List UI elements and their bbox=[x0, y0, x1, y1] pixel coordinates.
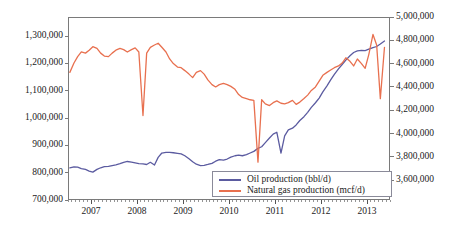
data-series-group bbox=[70, 34, 385, 172]
y-tick-label-right: 4,400,000 bbox=[396, 82, 434, 92]
x-tick-label: 2008 bbox=[128, 207, 147, 217]
legend-label-gas: Natural gas production (mcf/d) bbox=[247, 185, 365, 196]
y-tick-label-left: 1,000,000 bbox=[2, 113, 63, 123]
x-tick-label: 2010 bbox=[220, 207, 239, 217]
y-tick-label-right: 4,600,000 bbox=[396, 59, 434, 69]
y-tick-label-right: 3,800,000 bbox=[396, 152, 434, 162]
y-tick-label-left: 1,200,000 bbox=[2, 59, 63, 69]
legend-swatch-oil bbox=[219, 179, 241, 181]
y-tick-label-left: 1,100,000 bbox=[2, 86, 63, 96]
chart-container: 700,000800,000900,0001,000,0001,100,0001… bbox=[0, 0, 455, 231]
x-tick-label: 2007 bbox=[82, 207, 101, 217]
y-tick-label-left: 1,300,000 bbox=[2, 31, 63, 41]
x-tick-label: 2012 bbox=[312, 207, 331, 217]
y-tick-label-right: 4,800,000 bbox=[396, 36, 434, 46]
y-tick-label-right: 3,600,000 bbox=[396, 175, 434, 185]
legend-item-oil: Oil production (bbl/d) bbox=[213, 174, 391, 185]
x-tick-label: 2011 bbox=[266, 207, 285, 217]
y-tick-label-right: 4,200,000 bbox=[396, 105, 434, 115]
y-tick-label-right: 5,000,000 bbox=[396, 12, 434, 22]
legend-item-gas: Natural gas production (mcf/d) bbox=[213, 185, 391, 196]
y-tick-label-right: 4,000,000 bbox=[396, 129, 434, 139]
x-tick-label: 2009 bbox=[174, 207, 193, 217]
series-line-oil bbox=[70, 41, 385, 172]
legend-swatch-gas bbox=[219, 190, 241, 192]
y-tick-label-left: 900,000 bbox=[2, 141, 63, 151]
y-tick-label-left: 700,000 bbox=[2, 195, 63, 205]
x-tick-label: 2013 bbox=[358, 207, 377, 217]
legend-label-oil: Oil production (bbl/d) bbox=[247, 174, 331, 185]
y-tick-label-left: 800,000 bbox=[2, 168, 63, 178]
chart-legend: Oil production (bbl/d) Natural gas produ… bbox=[212, 171, 392, 197]
series-line-gas bbox=[70, 34, 385, 162]
